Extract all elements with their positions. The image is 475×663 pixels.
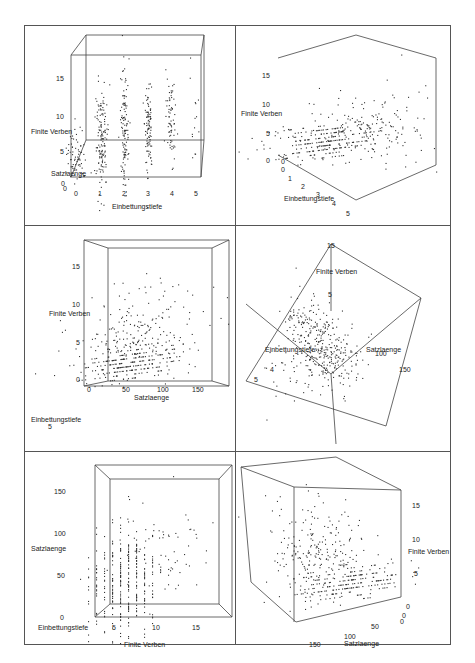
tick-label: 15	[412, 502, 420, 509]
tick-label: 0	[76, 376, 80, 383]
axis-label: Finite Verben	[316, 268, 357, 275]
tick-label: 5	[60, 148, 64, 155]
tick-label: 10	[412, 536, 420, 543]
tick-label: 5	[112, 624, 116, 631]
tick-label: 5	[48, 423, 52, 430]
tick-label: 5	[76, 339, 80, 346]
axis-label: Finite Verben	[31, 128, 72, 135]
tick-label: 4	[332, 200, 336, 207]
bounding-box-edge	[95, 465, 232, 617]
bounding-box-edge	[219, 465, 232, 479]
tick-label: 5	[414, 570, 418, 577]
bounding-box-edge	[241, 467, 294, 487]
bounding-box-edge	[95, 604, 110, 617]
tick-label: 150	[309, 641, 321, 648]
tick-label: 0	[400, 618, 404, 625]
axis-label: Satzlaenge	[31, 545, 66, 552]
plot-canvas	[24, 25, 235, 225]
tick-label: 15	[56, 75, 64, 82]
bounding-box-edge	[278, 35, 436, 200]
scatter3d-panel-4: Finite VerbenEinbettungstiefeSatzlaenge1…	[236, 226, 451, 451]
tick-label: 2	[301, 183, 305, 190]
tick-label: 0	[63, 185, 67, 192]
bounding-box-edge	[71, 35, 86, 55]
tick-label: 0	[266, 157, 270, 164]
data-points	[238, 484, 419, 612]
tick-label: 3	[146, 190, 150, 197]
bounding-box-edge	[201, 140, 204, 177]
tick-label: 50	[122, 386, 130, 393]
bounding-box-edge	[246, 298, 421, 374]
bounding-box-edge	[84, 240, 229, 386]
tick-label: 5	[346, 210, 350, 217]
tick-label: 0	[281, 166, 285, 173]
tick-label: 15	[72, 263, 80, 270]
data-points	[264, 268, 372, 421]
axis-label: Satzlaenge	[51, 170, 86, 177]
tick-label: 0	[406, 603, 410, 610]
tick-label: 1	[288, 175, 292, 182]
bounding-box-edge	[71, 55, 201, 177]
bounding-box-edge	[108, 248, 212, 381]
scatter3d-panel-6: Finite VerbenSatzlaenge1510500050100150	[236, 452, 451, 645]
data-points	[80, 476, 214, 644]
tick-label: 1	[98, 190, 102, 197]
tick-label: 150	[54, 488, 66, 495]
axis-label: Satzlaenge	[134, 394, 169, 401]
tick-label: 15	[327, 242, 335, 249]
bounding-box-edge	[201, 35, 204, 55]
plot-canvas	[236, 25, 451, 225]
scatter3d-panel-2: Finite VerbenEinbettungstiefe15105000123…	[236, 25, 451, 225]
tick-label: 4	[170, 190, 174, 197]
bounding-box-edge	[219, 604, 232, 617]
bounding-box-edge	[294, 487, 401, 490]
bounding-box-edge	[110, 479, 219, 604]
bounding-box-edge	[331, 374, 336, 444]
bounding-box-edge	[95, 465, 110, 479]
bounding-box-edge	[212, 381, 229, 386]
axis-label: Finite Verben	[408, 548, 449, 555]
tick-label: 10	[72, 301, 80, 308]
tick-label: 5	[266, 130, 270, 137]
tick-label: 100	[54, 530, 66, 537]
tick-label: 15	[262, 72, 270, 79]
tick-label: 10	[152, 624, 160, 631]
bounding-box-edge	[84, 240, 108, 248]
data-points	[35, 273, 229, 388]
axis-label: Einbettungstiefe	[112, 203, 162, 210]
tick-label: 150	[192, 386, 204, 393]
tick-label: 4	[270, 366, 274, 373]
tick-label: 100	[157, 386, 169, 393]
scatter3d-panel-3: Finite VerbenSatzlaengeEinbettungstiefe1…	[24, 226, 235, 451]
tick-label: 5	[254, 376, 258, 383]
tick-label: 0	[74, 190, 78, 197]
axis-label: Finite Verben	[49, 310, 90, 317]
tick-label: 100	[344, 633, 356, 640]
axis-label: Einbettungstiefe	[38, 624, 88, 631]
tick-label: 2	[122, 190, 126, 197]
scatter3d-panel-5: SatzlaengeEinbettungstiefeFinite Verben1…	[24, 452, 235, 645]
tick-label: 50	[57, 572, 65, 579]
axis-label: Einbettungstiefe	[284, 195, 334, 202]
axis-label: Einbettungstiefe	[31, 416, 81, 423]
axis-label: Einbettungstiefe	[265, 346, 315, 353]
tick-label: 5	[194, 190, 198, 197]
tick-label: 15	[192, 624, 200, 631]
bounding-box-edge	[212, 240, 229, 248]
tick-label: 10	[56, 113, 64, 120]
bounding-box-edge	[241, 457, 401, 622]
axis-label: Finite Verben	[241, 110, 282, 117]
tick-label: 50	[371, 623, 379, 630]
tick-label: 100	[375, 350, 387, 357]
axis-label: Finite Verben	[124, 641, 165, 648]
tick-label: 0	[60, 614, 64, 621]
tick-label: 0	[281, 158, 285, 165]
tick-label: 150	[399, 366, 411, 373]
tick-label: 0	[87, 386, 91, 393]
plot-canvas	[236, 226, 451, 451]
tick-label: 3	[316, 191, 320, 198]
tick-label: 5	[328, 291, 332, 298]
axis-label: Satzlaenge	[344, 640, 379, 647]
scatter3d-panel-1: Finite VerbenSatzlaengeEinbettungstiefe1…	[24, 25, 235, 225]
tick-label: 10	[262, 101, 270, 108]
